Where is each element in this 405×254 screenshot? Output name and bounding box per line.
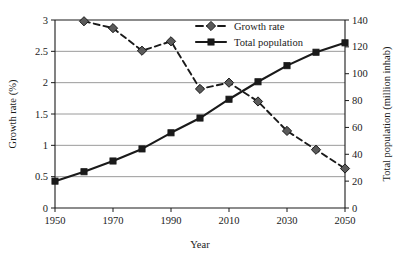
- x-tick-label: 1970: [103, 215, 124, 226]
- data-point-marker: [284, 63, 290, 69]
- data-point-marker: [342, 40, 348, 46]
- legend-label: Growth rate: [234, 21, 285, 32]
- left-tick-label: 0: [43, 203, 48, 214]
- left-tick-label: 3: [43, 15, 48, 26]
- right-tick-label: 100: [352, 68, 368, 79]
- data-point-marker: [168, 130, 174, 136]
- data-point-marker: [313, 49, 319, 55]
- left-tick-label: 2.5: [35, 46, 48, 57]
- left-tick-label: 2: [43, 77, 48, 88]
- x-tick-label: 2030: [277, 215, 298, 226]
- right-tick-label: 0: [352, 203, 357, 214]
- data-point-marker: [226, 96, 232, 102]
- dual-axis-line-chart: 00.511.522.53 020406080100120140 1950197…: [0, 0, 405, 254]
- right-tick-label: 40: [352, 149, 363, 160]
- data-point-marker: [110, 158, 116, 164]
- data-point-marker: [52, 178, 58, 184]
- left-tick-label: 1.5: [35, 109, 48, 120]
- x-axis-title: Year: [190, 239, 210, 250]
- y-axis-title: Growth rate (%): [7, 79, 19, 148]
- legend-marker: [208, 39, 214, 45]
- right-tick-label: 80: [352, 95, 363, 106]
- data-point-marker: [197, 115, 203, 121]
- data-point-marker: [81, 169, 87, 175]
- data-point-marker: [255, 79, 261, 85]
- right-tick-label: 140: [352, 15, 368, 26]
- right-tick-label: 120: [352, 41, 368, 52]
- right-tick-label: 60: [352, 122, 363, 133]
- x-tick-label: 1990: [161, 215, 182, 226]
- left-tick-label: 0.5: [35, 171, 48, 182]
- right-tick-label: 20: [352, 176, 363, 187]
- x-tick-label: 1950: [45, 215, 66, 226]
- left-tick-label: 1: [43, 140, 48, 151]
- x-tick-label: 2050: [335, 215, 356, 226]
- y2-axis-title: Total population (million inhab): [381, 46, 393, 181]
- chart-figure: 00.511.522.53 020406080100120140 1950197…: [0, 0, 405, 254]
- data-point-marker: [139, 146, 145, 152]
- legend-label: Total population: [234, 37, 304, 48]
- x-tick-label: 2010: [219, 215, 240, 226]
